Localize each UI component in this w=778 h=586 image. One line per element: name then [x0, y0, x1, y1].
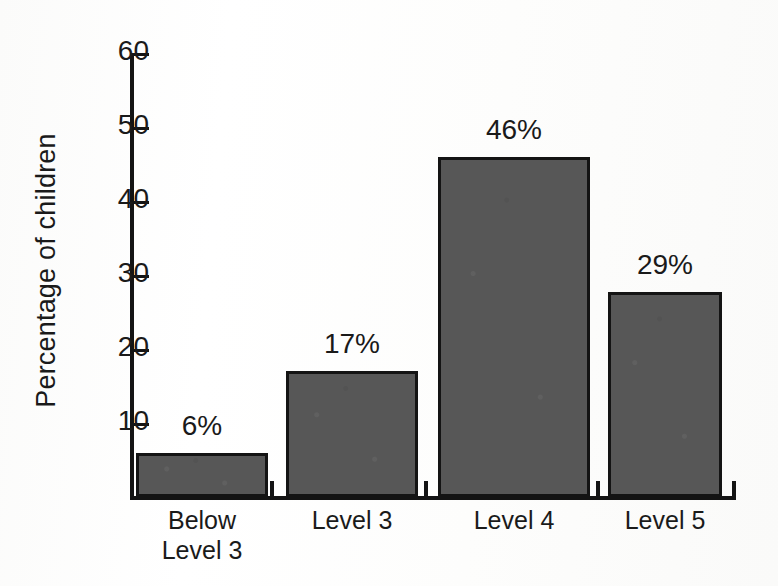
- bar-level-5[interactable]: [608, 292, 722, 497]
- x-axis-label-below-level-3: Below Level 3: [128, 506, 276, 565]
- x-axis-label-level-4: Level 4: [440, 506, 588, 536]
- bar-below-level-3[interactable]: [136, 453, 268, 497]
- x-axis-tick-1: [270, 481, 274, 497]
- x-axis-label-level-3: Level 3: [278, 506, 426, 536]
- y-tick-label-30: 30: [85, 259, 149, 287]
- y-tick-label-60: 60: [85, 37, 149, 65]
- bar-level-4[interactable]: [438, 157, 590, 497]
- x-axis-tick-2: [424, 481, 428, 497]
- plot-area: 60 50 40 30 20 10: [0, 0, 778, 586]
- x-axis-cap-left: [130, 481, 134, 500]
- bar-level-3[interactable]: [286, 371, 418, 497]
- x-axis-tick-3: [596, 481, 600, 497]
- y-tick-label-40: 40: [85, 185, 149, 213]
- x-axis-label-level-5: Level 5: [591, 506, 739, 536]
- bar-value-level-5: 29%: [595, 251, 735, 279]
- bar-chart-figure: Percentage of children 60 50 40 30 20 10: [0, 0, 778, 586]
- bar-value-level-4: 46%: [444, 116, 584, 144]
- y-tick-label-50: 50: [85, 111, 149, 139]
- bar-value-level-3: 17%: [282, 330, 422, 358]
- bar-value-below-level-3: 6%: [132, 412, 272, 440]
- x-axis-cap-right: [732, 481, 736, 500]
- y-tick-label-20: 20: [85, 333, 149, 361]
